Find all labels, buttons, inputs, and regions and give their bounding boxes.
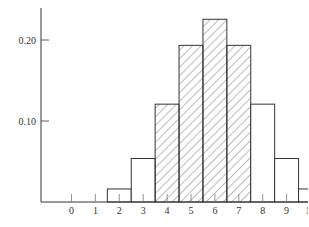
bar-6 <box>203 19 227 202</box>
bar-5 <box>179 45 203 202</box>
bar-8 <box>251 104 275 202</box>
x-tick-label: 3 <box>141 205 146 216</box>
x-tick-label: 5 <box>189 205 194 216</box>
y-tick-label: 0.10 <box>19 116 37 127</box>
y-tick-label: 0.20 <box>19 35 37 46</box>
y-ticks: 0.100.20 <box>19 35 50 127</box>
x-tick-label: 2 <box>117 205 122 216</box>
bars <box>107 19 308 202</box>
bar-4 <box>155 104 179 202</box>
x-tick-label: 8 <box>260 205 265 216</box>
x-tick-label: 0 <box>69 205 74 216</box>
histogram-chart: 0.100.20 0123456789101112 <box>0 0 308 227</box>
x-tick-label: 1 <box>93 205 98 216</box>
x-tick-label: 7 <box>236 205 241 216</box>
bar-10 <box>299 189 308 202</box>
x-tick-label: 6 <box>212 205 217 216</box>
bar-7 <box>227 45 251 202</box>
x-tick-label: 9 <box>284 205 289 216</box>
x-tick-label: 4 <box>165 205 170 216</box>
x-tick-label: 10 <box>306 205 309 216</box>
